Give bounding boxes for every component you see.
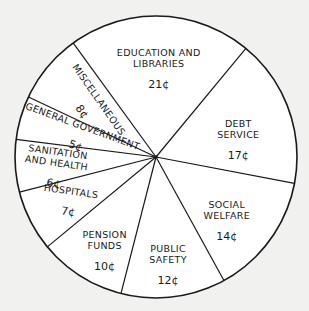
slice-value: 21¢ (148, 78, 169, 91)
slice-value: 17¢ (228, 149, 249, 162)
slice-name: DEBT (225, 118, 252, 129)
slice-name: PENSION (82, 229, 126, 240)
slice-name: SOCIAL (208, 199, 245, 210)
slice-value: 10¢ (94, 260, 115, 273)
slice-name: PUBLIC (150, 243, 186, 254)
slice-value: 12¢ (158, 274, 179, 287)
slice-name: SAFETY (149, 254, 187, 265)
slice-name: SERVICE (217, 129, 259, 140)
slice-name: WELFARE (203, 210, 249, 221)
slice-value: 14¢ (216, 230, 237, 243)
pie-chart: EDUCATION ANDLIBRARIES21¢DEBTSERVICE17¢S… (0, 0, 309, 311)
slice-name: EDUCATION AND (117, 47, 201, 58)
slice-value: 6¢ (46, 176, 62, 191)
pie-center (154, 155, 158, 159)
slice-value: 7¢ (60, 204, 76, 219)
slice-name: LIBRARIES (133, 58, 184, 69)
slice-name: FUNDS (87, 240, 121, 251)
